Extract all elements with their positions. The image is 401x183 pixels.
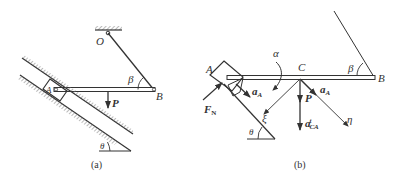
- svg-text:B: B: [156, 90, 163, 102]
- svg-text:ξ: ξ: [262, 112, 267, 125]
- svg-text:θ: θ: [249, 127, 254, 137]
- svg-text:A: A: [205, 63, 213, 75]
- svg-text:atCA: atCA: [305, 117, 319, 131]
- svg-text:aA: aA: [320, 83, 331, 97]
- svg-text:C: C: [298, 61, 306, 73]
- rod-ob-line: [334, 11, 374, 77]
- svg-text:aA: aA: [252, 85, 263, 99]
- svg-text:β: β: [347, 62, 354, 74]
- figure-b: β B C A θ FN aA α ξ η aA P: [203, 11, 385, 171]
- caption-a: (a): [91, 159, 102, 171]
- svg-text:α: α: [273, 47, 279, 59]
- svg-text:A: A: [45, 85, 52, 95]
- svg-text:β: β: [127, 73, 134, 85]
- svg-text:θ: θ: [100, 141, 105, 151]
- xi-axis: [264, 79, 300, 114]
- mechanics-diagram: θ P O β B A (a) β B C A θ FN: [0, 0, 401, 183]
- normal-force-arrow: [203, 83, 222, 100]
- theta-arc: [108, 142, 111, 151]
- svg-text:P: P: [112, 97, 119, 109]
- accel-a-arrow-1: [236, 84, 250, 97]
- beta-arc-b: [357, 63, 363, 77]
- svg-text:O: O: [96, 35, 104, 47]
- caption-b: (b): [294, 159, 306, 171]
- svg-text:P: P: [305, 92, 312, 104]
- figure-a: θ P O β B A (a): [18, 26, 163, 171]
- svg-text:η: η: [347, 113, 352, 125]
- svg-text:B: B: [378, 72, 385, 84]
- svg-text:FN: FN: [203, 103, 216, 117]
- rod-ab-b: [227, 76, 375, 80]
